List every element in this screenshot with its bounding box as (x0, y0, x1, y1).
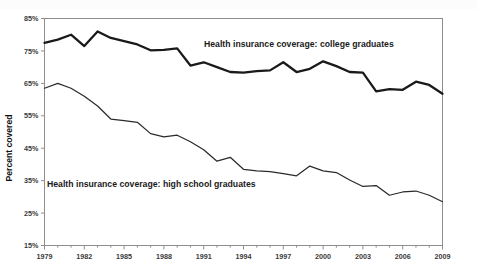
x-tick-label: 1994 (236, 252, 252, 261)
y-tick-label: 65% (24, 79, 39, 88)
y-axis-title: Percent covered (4, 115, 14, 182)
x-tick-label: 2000 (315, 252, 331, 261)
y-tick-label: 55% (24, 111, 39, 120)
y-tick-label: 45% (24, 144, 39, 153)
x-tick-label: 1997 (275, 252, 291, 261)
y-tick-label: 75% (24, 47, 39, 56)
x-tick-label: 2009 (435, 252, 451, 261)
chart-container: 85%75%65%55%45%35%25%15% 197919821985198… (0, 0, 477, 264)
x-tick-label: 1991 (196, 252, 212, 261)
top-margin-band (0, 0, 477, 9)
y-tick-label: 85% (24, 14, 39, 23)
series-annotation-0: Health insurance coverage: college gradu… (204, 39, 394, 49)
x-tick-label: 2003 (355, 252, 371, 261)
y-tick-label: 15% (24, 241, 39, 250)
x-tick-label: 1988 (156, 252, 172, 261)
y-tick-label: 25% (24, 209, 39, 218)
x-tick-label: 1985 (116, 252, 132, 261)
x-tick-label: 1979 (37, 252, 53, 261)
x-tick-label: 2006 (395, 252, 411, 261)
line-chart: 85%75%65%55%45%35%25%15% 197919821985198… (0, 0, 477, 264)
x-tick-label: 1982 (76, 252, 92, 261)
series-annotation-1: Health insurance coverage: high school g… (47, 179, 256, 189)
y-tick-label: 35% (24, 176, 39, 185)
